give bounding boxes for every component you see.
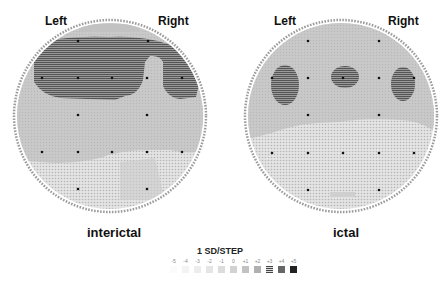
label-left: Left	[274, 14, 296, 28]
legend: -5 -4 -3 -2 -1 0 +1 +2 +3 +4 +5	[168, 258, 298, 278]
legend-step: -2	[204, 258, 215, 273]
legend-swatch	[242, 266, 249, 273]
elevated-region-center	[331, 66, 359, 88]
legend-swatch	[182, 266, 189, 273]
legend-step: -4	[180, 258, 191, 273]
legend-step: 0	[228, 258, 239, 273]
legend-step: +2	[252, 258, 263, 273]
legend-step: -5	[168, 258, 179, 273]
legend-swatch	[278, 266, 285, 273]
caption-interictal: interictal	[87, 225, 141, 240]
ictal-map	[245, 20, 440, 215]
legend-step: -1	[216, 258, 227, 273]
legend-swatch	[218, 266, 225, 273]
interictal-map	[14, 20, 209, 215]
legend-swatch	[194, 266, 201, 273]
legend-step: +1	[240, 258, 251, 273]
legend-step: +3	[264, 258, 275, 273]
legend-swatch	[170, 266, 177, 273]
legend-swatch	[254, 266, 261, 273]
label-right: Right	[158, 14, 189, 28]
legend-step: +4	[276, 258, 287, 273]
topographic-maps	[0, 0, 446, 285]
elevated-region-right	[391, 67, 415, 101]
legend-step: -3	[192, 258, 203, 273]
legend-swatch	[230, 266, 237, 273]
legend-swatch	[266, 266, 273, 273]
legend-title: 1 SD/STEP	[197, 246, 243, 256]
label-left: Left	[45, 14, 67, 28]
legend-swatch	[290, 266, 297, 273]
caption-ictal: ictal	[333, 225, 359, 240]
label-right: Right	[388, 14, 419, 28]
elevated-region-left	[271, 65, 299, 105]
legend-swatch	[206, 266, 213, 273]
legend-step: +5	[288, 258, 299, 273]
